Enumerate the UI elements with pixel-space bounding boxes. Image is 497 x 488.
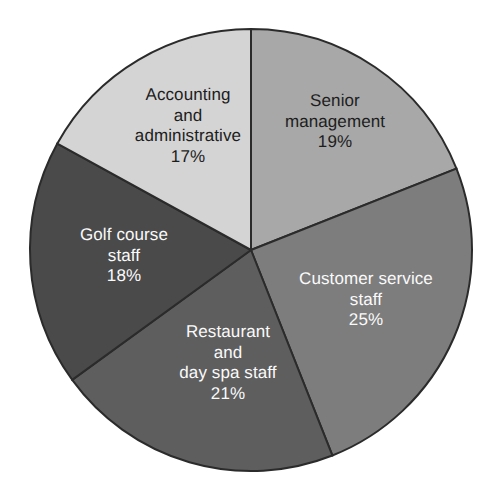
pie-chart: Seniormanagement19%Customer servicestaff… [0, 0, 497, 488]
pie-chart-canvas [0, 0, 497, 488]
